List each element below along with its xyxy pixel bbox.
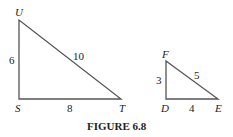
side-label-ut: 10 xyxy=(73,50,85,62)
triangle-fde: F D E 3 4 5 xyxy=(156,48,222,114)
triangle-fde-shape xyxy=(166,61,218,99)
triangle-ust-shape xyxy=(19,20,121,99)
figure-caption: FIGURE 6.8 xyxy=(87,120,147,132)
vertex-label-t: T xyxy=(119,102,126,114)
vertex-label-s: S xyxy=(15,102,21,114)
side-label-de: 4 xyxy=(189,102,195,114)
side-label-fd: 3 xyxy=(156,74,162,86)
figure-canvas: U S T 6 8 10 F D E 3 4 5 FIGURE 6.8 xyxy=(0,0,233,137)
triangle-ust: U S T 6 8 10 xyxy=(9,6,126,114)
vertex-label-e: E xyxy=(214,102,222,114)
side-label-fe: 5 xyxy=(194,69,200,81)
vertex-label-f: F xyxy=(161,48,169,60)
vertex-label-d: D xyxy=(160,102,169,114)
vertex-label-u: U xyxy=(15,6,24,18)
side-label-st: 8 xyxy=(67,102,73,114)
side-label-us: 6 xyxy=(9,54,15,66)
